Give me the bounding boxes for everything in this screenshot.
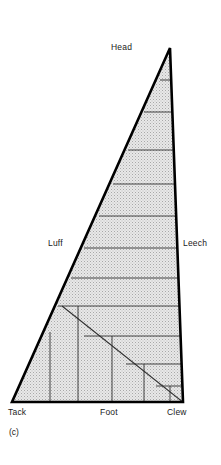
label-leech: Leech [183,238,207,248]
label-foot: Foot [100,407,118,417]
sail-diagram-svg [0,0,221,465]
label-tack: Tack [8,407,26,417]
label-clew: Clew [167,407,187,417]
sail-diagram-figure: Head Luff Leech Tack Foot Clew (c) [0,0,221,465]
label-luff: Luff [48,238,63,248]
label-head: Head [111,42,132,52]
sail-body-fill [12,48,183,402]
figure-caption: (c) [9,427,19,437]
